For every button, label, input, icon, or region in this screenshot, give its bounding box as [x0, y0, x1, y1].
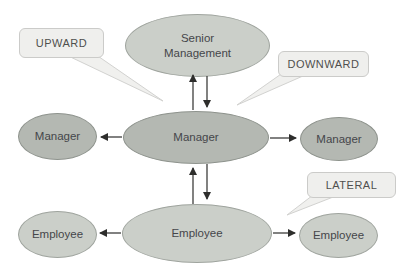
node-employee-left: Employee	[18, 211, 97, 258]
node-senior-management: Senior Management	[125, 14, 270, 77]
callout-downward: DOWNWARD	[278, 51, 369, 77]
callout-lateral: LATERAL	[307, 172, 396, 198]
node-employee-left-label: Employee	[32, 227, 83, 241]
node-manager-right-label: Manager	[316, 132, 361, 146]
callout-downward-label: DOWNWARD	[287, 58, 359, 70]
node-senior-management-label: Senior Management	[152, 31, 244, 60]
callout-lateral-label: LATERAL	[326, 179, 378, 191]
communication-flow-diagram: Senior Management Manager Manager Manage…	[0, 0, 412, 274]
node-manager-left-label: Manager	[35, 129, 80, 143]
node-manager-center-label: Manager	[173, 130, 218, 144]
node-employee-center-label: Employee	[171, 226, 222, 240]
callout-upward: UPWARD	[19, 28, 104, 58]
node-employee-right: Employee	[299, 213, 378, 258]
node-manager-center: Manager	[123, 111, 269, 164]
callout-upward-label: UPWARD	[36, 37, 87, 49]
node-manager-left: Manager	[18, 113, 97, 160]
node-manager-right: Manager	[300, 117, 378, 161]
node-employee-center: Employee	[122, 204, 272, 263]
node-employee-right-label: Employee	[313, 228, 364, 242]
